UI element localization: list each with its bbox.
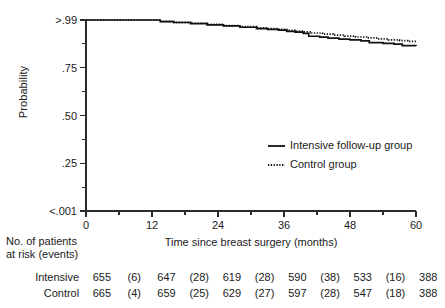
legend-item-intensive: Intensive follow-up group	[268, 136, 443, 155]
y-tick-label-6: .25	[62, 157, 77, 169]
x-tick-label-2: 12	[146, 219, 158, 231]
risk-cell-events: (16)	[379, 269, 411, 285]
legend-dotted-line-icon	[268, 160, 285, 170]
risk-cell-events: (28)	[314, 285, 346, 301]
x-tick-label-8: 48	[344, 219, 356, 231]
risk-table-row: Intensive655(6)647(28)619(28)590(38)533(…	[6, 269, 445, 285]
risk-table-row: Control665(4)659(25)629(27)597(28)547(18…	[6, 285, 445, 301]
risk-cell-at-risk: 647	[150, 269, 183, 285]
legend-solid-line-icon	[268, 141, 285, 151]
risk-heading-line-1: No. of patients	[6, 235, 445, 248]
risk-heading-line-2: at risk (events)	[6, 248, 445, 261]
risk-table-heading: No. of patients at risk (events)	[6, 235, 445, 260]
legend-label-control: Control group	[290, 159, 357, 170]
legend-label-intensive: Intensive follow-up group	[290, 140, 412, 151]
x-tick-label-6: 36	[278, 219, 290, 231]
risk-cell-events: (27)	[249, 285, 281, 301]
chart-legend: Intensive follow-up group Control group	[268, 136, 443, 174]
risk-cell-at-risk: 388	[411, 269, 445, 285]
risk-row-label: Control	[6, 285, 85, 301]
risk-cell-at-risk: 533	[346, 269, 379, 285]
kaplan-meier-figure: >.99.75.50.25<.001 01224364860 Probabili…	[0, 0, 445, 308]
y-axis-ticks	[80, 20, 86, 211]
risk-cell-at-risk: 547	[346, 285, 379, 301]
risk-cell-at-risk: 659	[150, 285, 183, 301]
y-axis-tick-labels: >.99.75.50.25<.001	[49, 14, 77, 217]
risk-cell-at-risk: 619	[215, 269, 248, 285]
y-tick-label-2: .75	[62, 62, 77, 74]
y-tick-label-0: >.99	[55, 14, 77, 26]
y-tick-label-8: <.001	[49, 205, 77, 217]
risk-cell-at-risk: 655	[85, 269, 118, 285]
risk-cell-events: (28)	[183, 269, 215, 285]
axes	[86, 20, 416, 211]
risk-cell-events: (28)	[249, 269, 281, 285]
legend-item-control: Control group	[268, 155, 443, 174]
survival-curves	[86, 20, 416, 46]
x-tick-label-4: 24	[212, 219, 224, 231]
risk-cell-events: (4)	[119, 285, 150, 301]
y-axis-title: Probability	[17, 47, 29, 137]
risk-cell-at-risk: 590	[281, 269, 314, 285]
x-tick-label-10: 60	[410, 219, 422, 231]
risk-cell-events: (6)	[119, 269, 150, 285]
x-axis-ticks	[86, 211, 416, 217]
risk-cell-events: (38)	[314, 269, 346, 285]
risk-cell-at-risk: 629	[215, 285, 248, 301]
risk-cell-at-risk: 597	[281, 285, 314, 301]
risk-row-label: Intensive	[6, 269, 85, 285]
x-tick-label-0: 0	[83, 219, 89, 231]
risk-cell-events: (18)	[379, 285, 411, 301]
y-tick-label-4: .50	[62, 110, 77, 122]
curve-intensive-follow-up-group	[86, 20, 416, 46]
risk-cell-events: (25)	[183, 285, 215, 301]
x-axis-tick-labels: 01224364860	[83, 219, 422, 231]
curve-control-group	[86, 20, 416, 42]
risk-cell-at-risk: 665	[85, 285, 118, 301]
plot-area: >.99.75.50.25<.001 01224364860	[0, 0, 445, 240]
risk-table: Intensive655(6)647(28)619(28)590(38)533(…	[6, 269, 445, 301]
risk-cell-at-risk: 388	[411, 285, 445, 301]
